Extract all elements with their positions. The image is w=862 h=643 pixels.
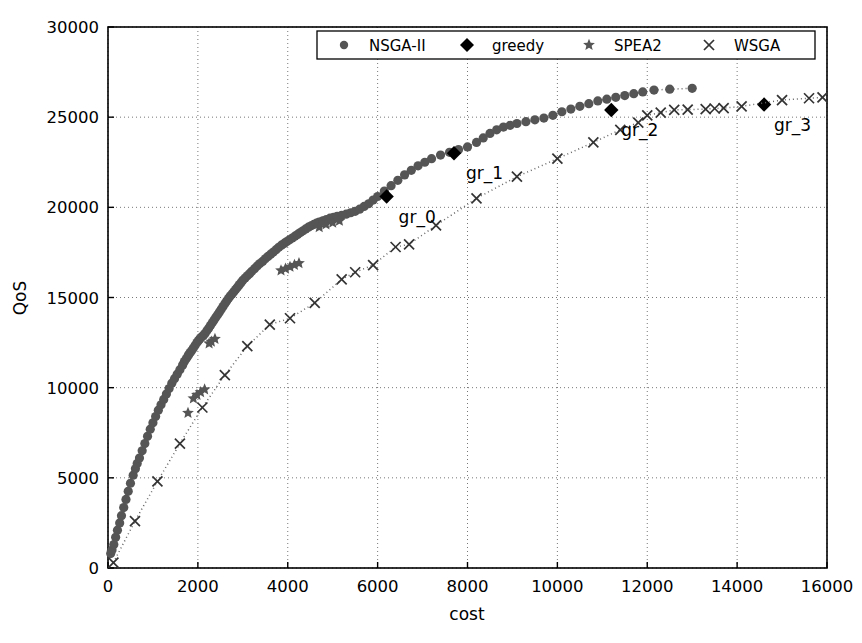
circle-marker-icon (620, 91, 629, 100)
x-marker-icon (310, 298, 320, 308)
x-marker-icon (220, 370, 230, 380)
tick-labels: 0200040006000800010000120001400016000050… (47, 18, 854, 596)
legend-box: NSGA-IIgreedySPEA2WSGA (317, 31, 815, 59)
x-marker-icon (350, 267, 360, 277)
x-marker-icon (391, 242, 401, 252)
x-tick-label: 12000 (621, 577, 674, 596)
circle-marker-icon (530, 115, 539, 124)
series-nsga-ii (106, 84, 697, 558)
legend-label: SPEA2 (614, 37, 662, 55)
circle-marker-icon (427, 154, 436, 163)
plot-border (108, 27, 827, 568)
y-tick-label: 25000 (47, 108, 100, 127)
x-tick-label: 4000 (267, 577, 309, 596)
circle-marker-icon (602, 95, 611, 104)
x-tick-label: 8000 (447, 577, 489, 596)
circle-marker-icon (611, 93, 620, 102)
x-marker-icon (175, 439, 185, 449)
legend-label: WSGA (734, 37, 781, 55)
point-annotation: gr_2 (621, 120, 658, 141)
circle-marker-icon (463, 142, 472, 151)
x-marker-icon (337, 274, 347, 284)
x-marker-icon (404, 239, 414, 249)
circle-marker-icon (638, 87, 647, 96)
circle-marker-icon (539, 113, 548, 122)
grid-lines (108, 27, 827, 568)
circle-marker-icon (575, 102, 584, 111)
x-tick-label: 6000 (357, 577, 399, 596)
legend-label: greedy (492, 37, 544, 55)
x-tick-label: 2000 (177, 577, 219, 596)
plot-frame (108, 27, 827, 568)
star-marker-icon (182, 407, 194, 418)
x-marker-icon (818, 92, 828, 102)
y-tick-label: 0 (89, 559, 100, 578)
x-marker-icon (368, 260, 378, 270)
point-annotation: gr_0 (399, 207, 436, 228)
y-tick-label: 15000 (47, 289, 100, 308)
chart-figure: 0200040006000800010000120001400016000050… (0, 0, 862, 643)
y-tick-label: 30000 (47, 18, 100, 37)
circle-marker-icon (119, 503, 128, 512)
circle-marker-icon (124, 487, 133, 496)
x-marker-icon (130, 516, 140, 526)
circle-marker-icon (521, 117, 530, 126)
point-annotation: gr_1 (466, 163, 503, 184)
x-tick-label: 10000 (531, 577, 584, 596)
circle-marker-icon (566, 104, 575, 113)
x-marker-icon (471, 193, 481, 203)
x-axis-label: cost (449, 604, 485, 624)
circle-marker-icon (649, 86, 658, 95)
x-marker-icon (656, 108, 666, 118)
y-axis-label: QoS (10, 281, 30, 316)
circle-marker-icon (340, 41, 348, 49)
circle-marker-icon (121, 495, 130, 504)
circle-marker-icon (629, 89, 638, 98)
circle-marker-icon (665, 85, 674, 94)
axis-ticks (108, 27, 827, 568)
circle-marker-icon (688, 84, 697, 93)
circle-marker-icon (557, 107, 566, 116)
x-tick-label: 16000 (801, 577, 854, 596)
x-marker-icon (683, 105, 693, 115)
y-tick-label: 5000 (57, 469, 99, 488)
circle-marker-icon (436, 150, 445, 159)
x-marker-icon (108, 558, 118, 568)
diamond-marker-icon (604, 103, 618, 117)
x-marker-icon (265, 320, 275, 330)
x-marker-icon (197, 403, 207, 413)
circle-marker-icon (584, 99, 593, 108)
series-layer (106, 84, 827, 568)
y-tick-label: 10000 (47, 379, 100, 398)
x-marker-icon (512, 172, 522, 182)
scatter-plot-canvas: 0200040006000800010000120001400016000050… (0, 0, 862, 643)
point-annotation: gr_3 (774, 115, 811, 136)
circle-marker-icon (512, 119, 521, 128)
circle-marker-icon (117, 511, 126, 520)
circle-marker-icon (126, 479, 135, 488)
x-marker-icon (285, 313, 295, 323)
circle-marker-icon (548, 111, 557, 120)
x-marker-icon (152, 476, 162, 486)
circle-marker-icon (593, 96, 602, 105)
x-tick-label: 14000 (711, 577, 764, 596)
annotation-layer: gr_0gr_1gr_2gr_3 (399, 115, 812, 228)
y-tick-label: 20000 (47, 198, 100, 217)
x-marker-icon (719, 103, 729, 113)
x-tick-label: 0 (103, 577, 114, 596)
diamond-marker-icon (757, 97, 771, 111)
x-marker-icon (242, 341, 252, 351)
legend-label: NSGA-II (369, 37, 426, 55)
x-marker-icon (588, 137, 598, 147)
